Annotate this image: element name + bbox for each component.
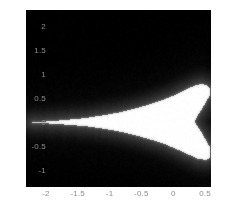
x-tick-label: -1 [106,190,114,198]
x-tick-label: -0.5 [134,190,149,198]
y-tick-label: 0 [41,119,46,127]
y-tick-label: 0.5 [34,95,46,103]
y-tick-label: 1 [41,71,46,79]
figure-container: -1-0.500.511.52 -2-1.5-1-0.500.5 [0,0,226,209]
density-plot-canvas [26,10,211,187]
y-tick-label: -0.5 [31,143,46,151]
x-tick-label: -1.5 [70,190,85,198]
x-tick-label: 0.5 [199,190,211,198]
x-tick-label: 0 [171,190,176,198]
y-tick-label: 1.5 [34,47,46,55]
y-tick-label: 2 [41,23,46,31]
x-tick-label: -2 [42,190,50,198]
y-tick-label: -1 [38,167,46,175]
plot-area [26,10,211,187]
